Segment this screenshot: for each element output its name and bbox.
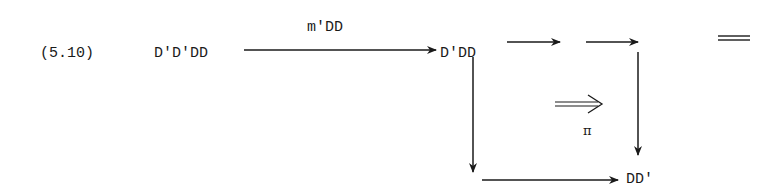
equals-sign [718, 36, 750, 40]
double-arrow-pi [555, 95, 602, 113]
diagram-arrows [0, 0, 784, 193]
